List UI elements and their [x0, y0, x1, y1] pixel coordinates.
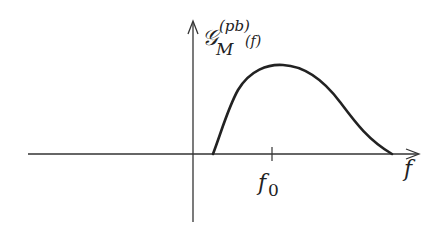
y-axis-label-subscript: M — [215, 39, 234, 59]
x-axis-label: f — [402, 156, 416, 181]
f0-label-subscript: 0 — [268, 180, 279, 200]
spectrum-curve — [213, 65, 392, 154]
spectrum-diagram: 𝒢 (pb) M (f) f 0 f — [0, 0, 441, 229]
y-axis-label-argument: (f) — [245, 33, 261, 49]
